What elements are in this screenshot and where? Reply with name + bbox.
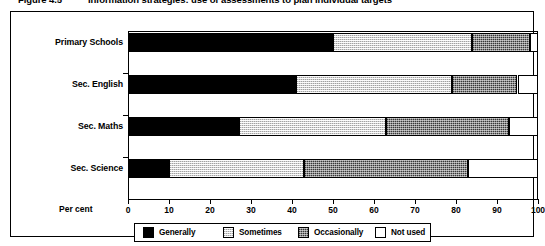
category-label-sec-science: Sec. Science [70, 163, 123, 173]
category-label-primary-schools: Primary Schools [55, 37, 123, 47]
bar-sec-science [128, 159, 538, 178]
bar-sec-maths [128, 117, 538, 136]
legend-swatch-sometimes [223, 227, 234, 238]
bar-segment-generally [128, 33, 333, 52]
bar-segment-not-used [518, 75, 539, 94]
bars-container [128, 31, 538, 199]
bar-segment-occasionally [304, 159, 468, 178]
legend-item-occasionally[interactable]: Occasionally [298, 227, 363, 238]
legend-swatch-generally [143, 227, 154, 238]
legend-item-sometimes[interactable]: Sometimes [223, 227, 282, 238]
bar-segment-generally [128, 159, 169, 178]
x-axis-tick-label: 60 [369, 205, 378, 215]
x-axis-tick-label: 20 [205, 205, 214, 215]
legend-label-generally: Generally [159, 228, 195, 237]
x-axis-tick-label: 0 [126, 205, 131, 215]
bar-segment-sometimes [333, 33, 472, 52]
bar-segment-occasionally [386, 117, 509, 136]
bar-segment-sometimes [239, 117, 387, 136]
legend-item-notused[interactable]: Not used [375, 227, 425, 238]
x-axis-tick [456, 199, 457, 204]
chart-legend: GenerallySometimesOccasionallyNot used [134, 223, 431, 242]
bar-segment-not-used [468, 159, 538, 178]
bar-sec-english [128, 75, 538, 94]
x-axis-tick-label: 30 [246, 205, 255, 215]
x-axis-tick [333, 199, 334, 204]
x-axis-tick [374, 199, 375, 204]
x-axis-tick [169, 199, 170, 204]
legend-label-sometimes: Sometimes [239, 228, 282, 237]
x-axis-tick [292, 199, 293, 204]
bar-segment-sometimes [296, 75, 452, 94]
bar-segment-sometimes [169, 159, 304, 178]
bar-segment-occasionally [452, 75, 518, 94]
x-axis-tick-label: 10 [164, 205, 173, 215]
x-axis-tick [128, 199, 129, 204]
figure-caption-strip: Figure 4.5Information strategies: use of… [0, 0, 544, 10]
bar-segment-not-used [530, 33, 538, 52]
figure-caption: Figure 4.5Information strategies: use of… [18, 0, 392, 5]
bar-primary-schools [128, 33, 538, 52]
category-label-column: Primary Schools Sec. English Sec. Maths … [11, 31, 123, 199]
legend-swatch-occasionally [298, 227, 309, 238]
x-axis-tick [210, 199, 211, 204]
x-axis-tick [497, 199, 498, 204]
legend-label-notused: Not used [391, 228, 425, 237]
bar-segment-not-used [509, 117, 538, 136]
legend-swatch-notused [375, 227, 386, 238]
legend-item-generally[interactable]: Generally [143, 227, 195, 238]
legend-label-occasionally: Occasionally [314, 228, 363, 237]
bar-segment-generally [128, 117, 239, 136]
bar-segment-occasionally [472, 33, 529, 52]
bar-segment-generally [128, 75, 296, 94]
x-axis-title: Per cent [59, 204, 93, 214]
x-axis-tick-label: 50 [328, 205, 337, 215]
x-axis-tick-label: 80 [451, 205, 460, 215]
x-axis-tick-label: 40 [287, 205, 296, 215]
x-axis-tick [415, 199, 416, 204]
x-axis-tick-label: 100 [531, 205, 545, 215]
figure-caption-text: Information strategies: use of assessmen… [88, 0, 392, 5]
category-label-sec-maths: Sec. Maths [78, 121, 123, 131]
chart-frame: Primary Schools Sec. English Sec. Maths … [10, 11, 534, 237]
x-axis-tick-label: 70 [410, 205, 419, 215]
x-axis-tick [251, 199, 252, 204]
category-label-sec-english: Sec. English [72, 79, 123, 89]
figure-number: Figure 4.5 [18, 0, 62, 5]
x-axis-tick [538, 199, 539, 204]
x-axis-tick-label: 90 [492, 205, 501, 215]
